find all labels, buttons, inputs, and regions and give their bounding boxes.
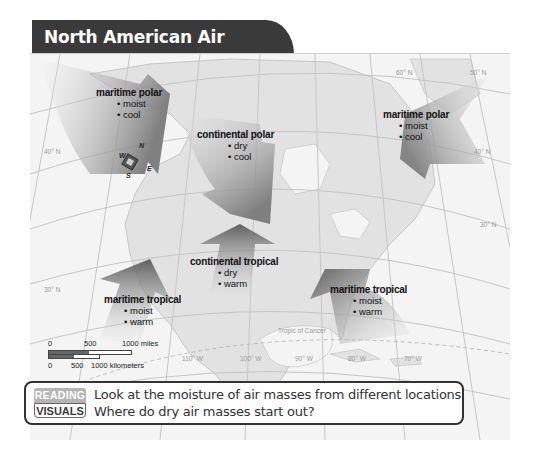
grid-label-40n-east: 40° N	[474, 148, 490, 155]
grid-label-40n-west: 40° N	[44, 148, 60, 155]
air-mass-label-maritime-polar-west: maritime polar • moist • cool	[96, 87, 162, 120]
compass-e-label: E	[147, 165, 152, 172]
reading-visuals-badge: READING VISUALS	[34, 388, 86, 418]
tropic-of-cancer-label: Tropic of Cancer	[278, 327, 326, 334]
question-text: Look at the moisture of air masses from …	[94, 386, 466, 420]
compass-n-label: N	[139, 142, 144, 149]
grid-label-30n-east: 30° N	[480, 221, 496, 228]
grid-label-80w: 80° W	[348, 355, 366, 362]
grid-label-50n: 50° N	[470, 69, 486, 76]
grid-label-90w: 90° W	[295, 355, 313, 362]
air-mass-label-continental-polar: continental polar • dry • cool	[197, 129, 274, 162]
reading-visuals-callout: READING VISUALS Look at the moisture of …	[24, 381, 464, 425]
air-mass-label-maritime-polar-east: maritime polar • moist • cool	[383, 109, 449, 142]
grid-label-60n: 60° N	[396, 69, 412, 76]
grid-label-30n-west: 30° N	[44, 286, 60, 293]
map-title: North American Air Masses	[32, 20, 294, 54]
grid-label-100w: 100° W	[240, 355, 261, 362]
air-mass-label-continental-tropical: continental tropical • dry • warm	[190, 256, 278, 289]
grid-label-70w: 70° W	[404, 355, 422, 362]
compass-w-label: W	[119, 152, 126, 159]
air-mass-label-maritime-tropical-west: maritime tropical • moist • warm	[104, 294, 181, 327]
compass-s-label: S	[126, 172, 131, 179]
air-mass-label-maritime-tropical-east: maritime tropical • moist • warm	[330, 284, 407, 317]
grid-label-110w: 110° W	[182, 355, 203, 362]
